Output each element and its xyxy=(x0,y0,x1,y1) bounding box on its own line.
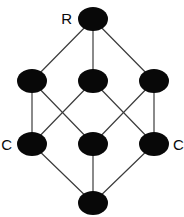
graph-node-low-right xyxy=(139,132,169,156)
graph-node-bottom xyxy=(78,191,108,215)
graph-node-top xyxy=(78,7,108,31)
node-label-c-2: C xyxy=(173,136,184,153)
lattice-svg-canvas: RCC xyxy=(0,0,184,217)
node-label-c-1: C xyxy=(1,136,12,153)
lattice-diagram: RCC xyxy=(0,0,184,217)
edges-group xyxy=(32,19,154,203)
graph-node-low-left xyxy=(17,132,47,156)
graph-node-mid-center xyxy=(78,69,108,93)
graph-node-low-center xyxy=(78,132,108,156)
graph-node-mid-left xyxy=(17,69,47,93)
node-label-r-0: R xyxy=(61,10,72,27)
graph-node-mid-right xyxy=(139,69,169,93)
